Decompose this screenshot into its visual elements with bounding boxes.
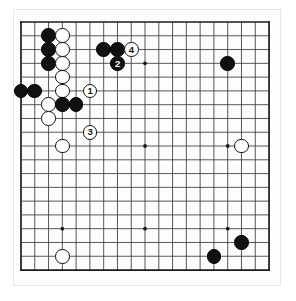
star-point: [60, 227, 64, 231]
star-point: [143, 227, 147, 231]
stone-white[interactable]: [41, 97, 56, 112]
move-stone-3[interactable]: 3: [83, 125, 98, 140]
move-stone-4[interactable]: 4: [124, 42, 139, 57]
move-stone-1[interactable]: 1: [83, 84, 98, 99]
stone-white[interactable]: [55, 56, 70, 71]
move-number-label: 4: [125, 43, 138, 56]
stone-white[interactable]: [55, 42, 70, 57]
stone-white[interactable]: [55, 70, 70, 85]
move-stone-2[interactable]: 2: [110, 56, 125, 71]
stone-black[interactable]: [110, 42, 125, 57]
stone-black[interactable]: [96, 42, 111, 57]
stone-white[interactable]: [55, 84, 70, 99]
stone-black[interactable]: [41, 56, 56, 71]
move-number-label: 3: [84, 126, 97, 139]
star-point: [143, 144, 147, 148]
stone-black[interactable]: [41, 42, 56, 57]
star-point: [143, 61, 147, 65]
stone-black[interactable]: [234, 235, 249, 250]
stone-black[interactable]: [220, 56, 235, 71]
stone-white[interactable]: [55, 28, 70, 43]
stone-black[interactable]: [41, 28, 56, 43]
move-number-label: 2: [111, 57, 124, 70]
stone-black[interactable]: [55, 97, 70, 112]
stone-white[interactable]: [55, 249, 70, 264]
star-point: [226, 144, 230, 148]
stone-white[interactable]: [41, 111, 56, 126]
star-point: [226, 227, 230, 231]
stone-white[interactable]: [55, 139, 70, 154]
stone-black[interactable]: [27, 84, 42, 99]
move-number-label: 1: [84, 85, 97, 98]
stone-black[interactable]: [207, 249, 222, 264]
stone-white[interactable]: [234, 139, 249, 154]
go-diagram-page: 4213: [0, 0, 296, 301]
